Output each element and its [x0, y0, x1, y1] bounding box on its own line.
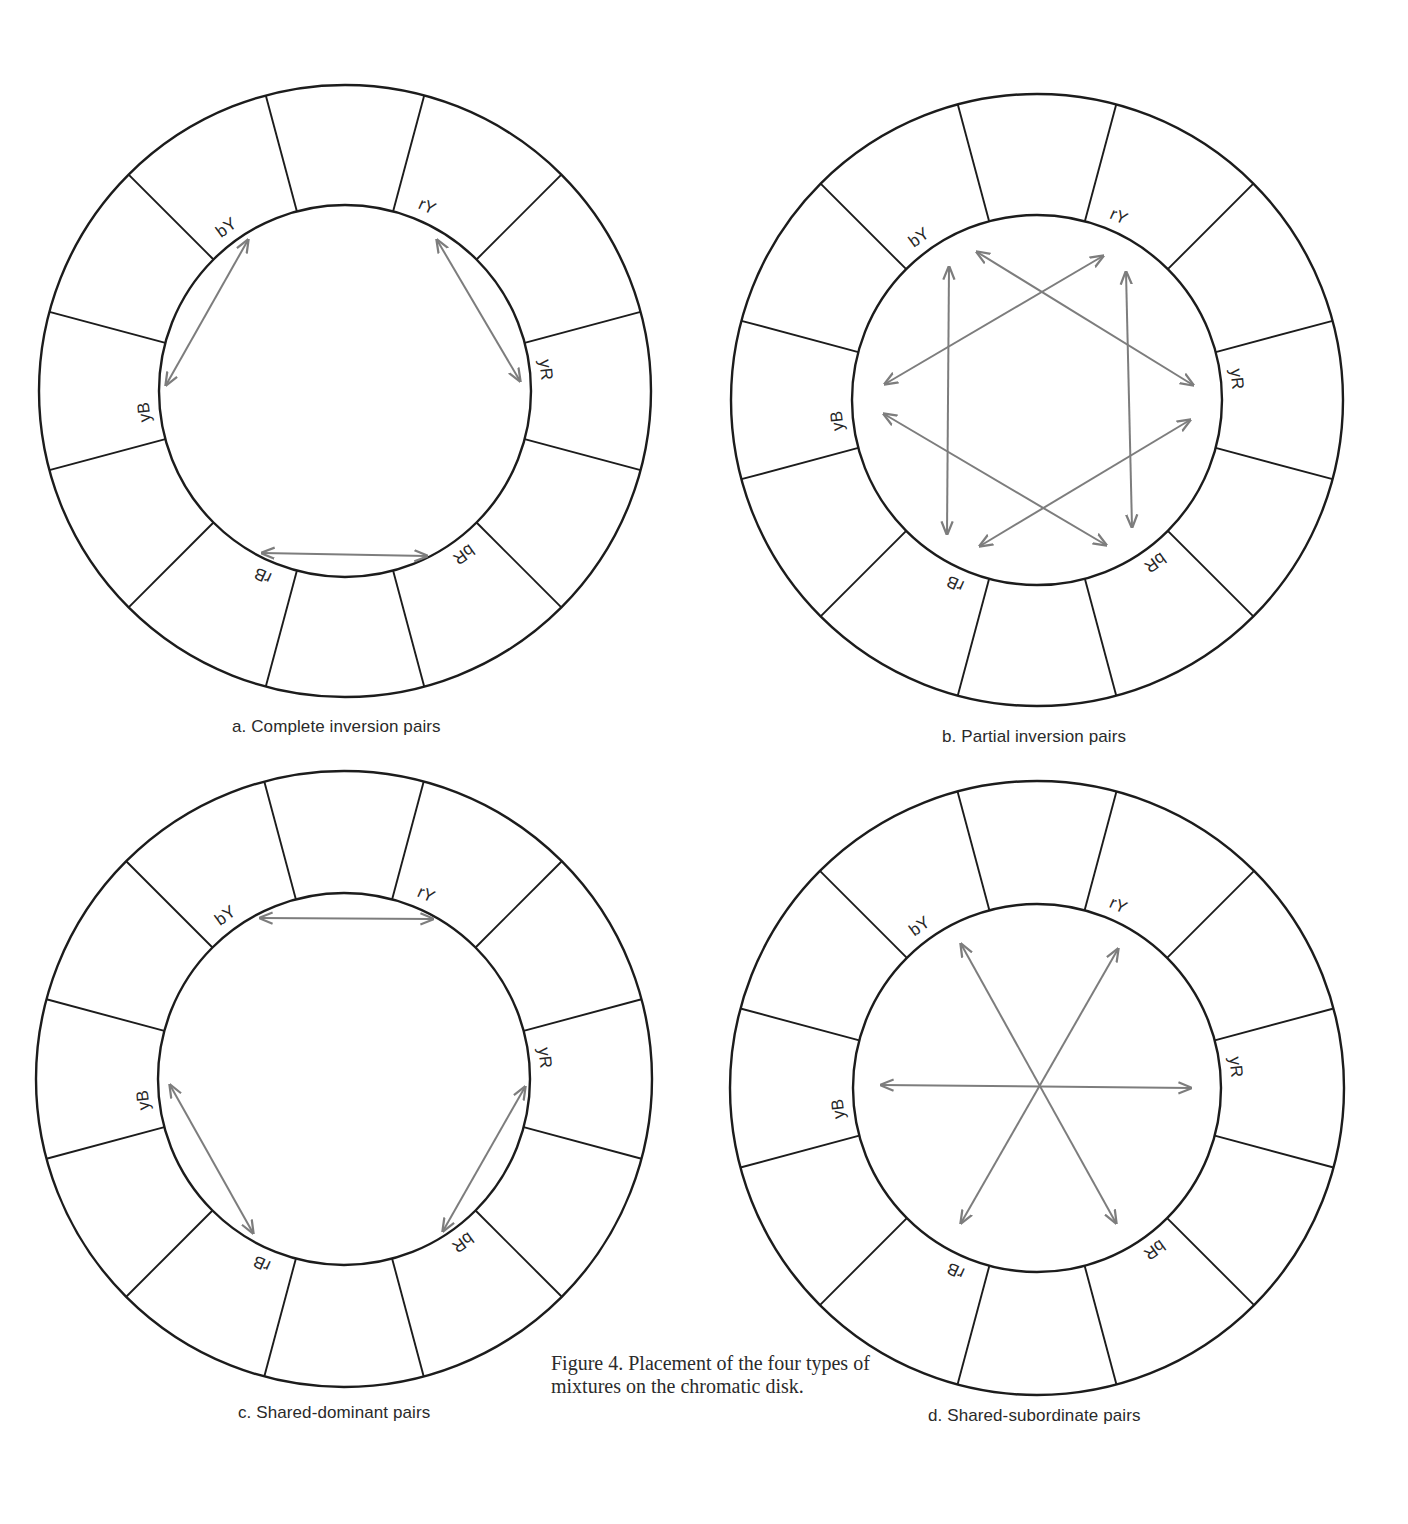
double-arrow-icon — [881, 1085, 1191, 1088]
segment-label-rY: rY — [1107, 204, 1130, 228]
segment-divider — [1216, 448, 1333, 479]
segment-divider — [1167, 1218, 1254, 1305]
segment-divider — [1085, 104, 1116, 221]
segment-label-bY: bY — [905, 912, 933, 940]
double-arrow-icon — [1126, 272, 1132, 527]
inner-ring — [852, 215, 1222, 585]
segment-label-yB: yB — [827, 410, 848, 432]
segment-divider — [476, 1211, 562, 1297]
segment-divider — [525, 312, 641, 343]
segment-divider — [126, 861, 212, 947]
double-arrow-icon — [884, 414, 1106, 545]
segment-divider — [741, 448, 858, 479]
disk-shared-dominant: yRrYbYyBrBbR — [36, 771, 652, 1387]
segment-divider — [266, 571, 297, 687]
inner-ring — [159, 205, 531, 577]
segment-divider — [264, 1259, 296, 1377]
segment-divider — [1215, 1009, 1334, 1041]
segment-label-yR: yR — [1225, 1056, 1246, 1079]
segment-divider — [524, 999, 642, 1031]
segment-label-rB: rB — [944, 1259, 967, 1283]
segment-label-bR: bR — [1141, 549, 1170, 577]
segment-label-rB: rB — [251, 563, 274, 587]
segment-divider — [1085, 1266, 1117, 1385]
segment-divider — [1216, 321, 1333, 352]
disk-complete-inversion: yRrYbYyBrBbR — [39, 85, 651, 697]
double-arrow-icon — [262, 553, 427, 556]
double-arrow-icon — [980, 420, 1190, 546]
segment-label-bY: bY — [211, 902, 239, 930]
segment-divider — [958, 104, 989, 221]
segment-divider — [741, 321, 858, 352]
segment-label-yR: yR — [1226, 368, 1247, 391]
double-arrow-icon — [166, 240, 248, 385]
segment-divider — [958, 1266, 990, 1385]
segment-divider — [740, 1136, 859, 1168]
segment-label-rY: rY — [415, 882, 438, 906]
segment-divider — [524, 1127, 642, 1159]
segment-label-yB: yB — [133, 1089, 154, 1111]
segment-divider — [958, 579, 989, 696]
segment-label-rB: rB — [250, 1251, 273, 1275]
double-arrow-icon — [885, 256, 1103, 384]
segment-label-yB: yB — [134, 401, 155, 423]
segment-label-yR: yR — [534, 1047, 555, 1070]
disk-shared-subordinate: yRrYbYyBrBbR — [730, 781, 1344, 1395]
double-arrow-icon — [947, 267, 949, 534]
inner-ring — [158, 893, 530, 1265]
segment-divider — [1085, 791, 1117, 910]
segment-divider — [821, 184, 907, 270]
segment-label-bY: bY — [905, 224, 933, 252]
segment-label-rB: rB — [944, 571, 967, 595]
segment-label-bR: bR — [448, 1228, 477, 1256]
caption-c: c. Shared-dominant pairs — [238, 1403, 430, 1423]
double-arrow-icon — [260, 918, 433, 919]
segment-label-bR: bR — [449, 540, 478, 568]
double-arrow-icon — [977, 252, 1193, 385]
caption-d: d. Shared-subordinate pairs — [928, 1406, 1141, 1426]
segment-divider — [129, 523, 214, 608]
segment-divider — [1215, 1136, 1334, 1168]
segment-divider — [821, 531, 907, 617]
segment-divider — [820, 1218, 907, 1305]
segment-label-bY: bY — [212, 214, 240, 242]
segment-label-rY: rY — [416, 194, 439, 218]
segment-divider — [126, 1211, 212, 1297]
segment-divider — [46, 999, 164, 1031]
segment-divider — [393, 95, 424, 211]
caption-b: b. Partial inversion pairs — [942, 727, 1126, 747]
segment-divider — [392, 1259, 424, 1377]
segment-divider — [129, 175, 214, 260]
segment-label-bR: bR — [1140, 1236, 1169, 1264]
segment-divider — [1167, 871, 1254, 958]
caption-a: a. Complete inversion pairs — [232, 717, 441, 737]
disk-partial-inversion: yRrYbYyBrBbR — [731, 94, 1343, 706]
segment-divider — [49, 312, 165, 343]
segment-divider — [525, 439, 641, 470]
segment-divider — [393, 571, 424, 687]
segment-divider — [46, 1127, 164, 1159]
segment-divider — [1085, 579, 1116, 696]
segment-divider — [477, 523, 562, 608]
segment-label-yR: yR — [535, 359, 556, 382]
segment-label-rY: rY — [1107, 893, 1130, 917]
segment-divider — [264, 781, 296, 899]
chromatic-disk-figure: yRrYbYyBrBbR yRrYbYyBrBbR yRrYbYyBrBbR y… — [0, 0, 1408, 1524]
segment-divider — [476, 861, 562, 947]
segment-divider — [1168, 184, 1254, 270]
segment-divider — [1168, 531, 1254, 617]
segment-divider — [266, 95, 297, 211]
segment-divider — [392, 781, 424, 899]
figure-caption: Figure 4. Placement of the four types of… — [551, 1352, 881, 1398]
segment-divider — [49, 439, 165, 470]
segment-divider — [958, 791, 990, 910]
segment-label-yB: yB — [828, 1098, 849, 1120]
segment-divider — [477, 175, 562, 260]
segment-divider — [820, 871, 907, 958]
segment-divider — [740, 1009, 859, 1041]
